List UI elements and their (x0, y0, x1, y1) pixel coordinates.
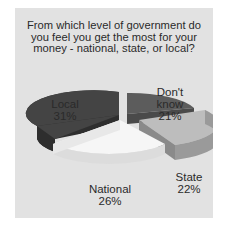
label-dont-know-pct: 21% (145, 110, 195, 122)
label-state-name: State (167, 171, 211, 183)
label-national-name: National (80, 183, 140, 195)
label-dont-know: Don't know 21% (145, 86, 195, 122)
label-dont-know-name-2: know (145, 98, 195, 110)
label-dont-know-name-1: Don't (145, 86, 195, 98)
label-local-name: Local (45, 98, 85, 110)
label-local: Local 31% (45, 98, 85, 122)
label-state-pct: 22% (167, 183, 211, 195)
label-local-pct: 31% (45, 110, 85, 122)
label-national: National 26% (80, 183, 140, 207)
chart-panel: From which level of government do you fe… (15, 8, 213, 218)
label-national-pct: 26% (80, 195, 140, 207)
label-state: State 22% (167, 171, 211, 195)
